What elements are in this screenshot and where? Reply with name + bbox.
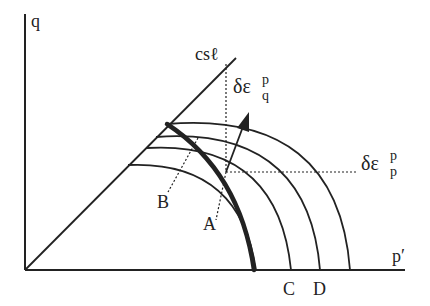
p-axis-label: p′ <box>392 246 405 266</box>
yield-locus-3 <box>156 136 320 270</box>
dotted-line-B <box>168 138 198 192</box>
point-label-C: C <box>283 279 295 299</box>
dp-strain-sup: p <box>390 148 397 163</box>
point-label-A: A <box>203 214 216 234</box>
strain-increment-arrow-head <box>237 112 249 132</box>
critical-state-line <box>25 58 236 270</box>
dq-strain-symbol: δε <box>233 75 251 97</box>
dq-strain-sub: q <box>262 88 269 103</box>
yield-surface-diagram: q p′ csℓ δε p q δε p p B A C D <box>0 0 430 306</box>
yield-locus-1 <box>128 165 256 270</box>
dq-strain-sup: p <box>262 72 269 87</box>
dp-strain-symbol: δε <box>361 152 379 174</box>
dp-strain-sub: p <box>390 164 397 179</box>
csl-label: csℓ <box>195 44 219 64</box>
point-label-D: D <box>313 279 326 299</box>
point-label-B: B <box>157 192 169 212</box>
q-axis-label: q <box>31 11 40 31</box>
